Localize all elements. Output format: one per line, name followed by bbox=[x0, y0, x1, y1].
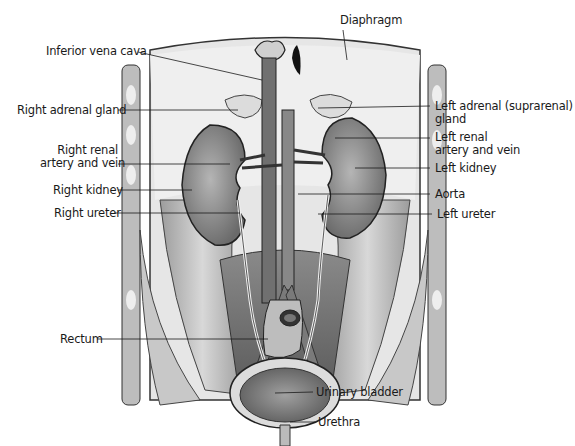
label-urethra: Urethra bbox=[318, 416, 360, 429]
label-left-adrenal-gland: Left adrenal (suprarenal) gland bbox=[435, 100, 573, 126]
label-left-renal-artery-vein: Left renal artery and vein bbox=[435, 131, 520, 157]
label-diaphragm: Diaphragm bbox=[340, 14, 402, 27]
label-left-renal-line2: artery and vein bbox=[435, 144, 520, 157]
label-aorta: Aorta bbox=[435, 188, 465, 201]
urinary-bladder-shape bbox=[230, 358, 340, 446]
rectum-shape bbox=[263, 300, 302, 358]
label-left-adrenal-gland-line2: gland bbox=[435, 113, 573, 126]
urethra-shape bbox=[280, 425, 290, 446]
label-right-renal-artery-vein: Right renal artery and vein bbox=[40, 144, 118, 170]
label-inferior-vena-cava: Inferior vena cava bbox=[46, 45, 147, 58]
label-urinary-bladder: Urinary bladder bbox=[316, 386, 403, 399]
label-right-adrenal-gland: Right adrenal gland bbox=[17, 104, 126, 117]
label-right-kidney: Right kidney bbox=[53, 184, 123, 197]
label-left-ureter: Left ureter bbox=[437, 208, 495, 221]
anatomy-illustration bbox=[0, 0, 575, 446]
label-rectum: Rectum bbox=[60, 333, 103, 346]
urinary-system-figure: Diaphragm Inferior vena cava Right adren… bbox=[0, 0, 575, 446]
label-right-ureter: Right ureter bbox=[54, 207, 121, 220]
label-left-kidney: Left kidney bbox=[435, 162, 496, 175]
label-right-renal-line2: artery and vein bbox=[40, 157, 118, 170]
